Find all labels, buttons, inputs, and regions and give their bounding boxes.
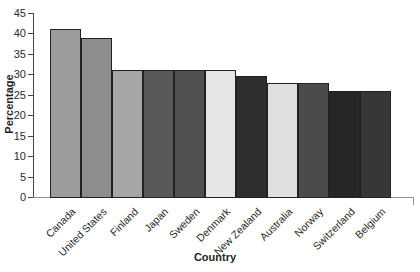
bar-chart-percentage-by-country: Percentage 051015202530354045CanadaUnite… (0, 0, 420, 272)
y-tick-20 (28, 115, 33, 116)
y-axis-line (33, 13, 34, 197)
x-axis-end-tick (413, 197, 414, 205)
y-tick-label-35: 35 (0, 49, 26, 60)
bar-belgium (360, 91, 391, 198)
bar-switzerland (329, 91, 360, 198)
y-tick-label-30: 30 (0, 69, 26, 80)
y-tick-40 (28, 33, 33, 34)
bar-australia (267, 83, 298, 198)
bar-finland (112, 70, 143, 198)
bar-denmark (205, 70, 236, 198)
bar-japan (143, 70, 174, 198)
y-tick-label-15: 15 (0, 131, 26, 142)
bar-canada (50, 29, 81, 198)
y-tick-label-5: 5 (0, 172, 26, 183)
x-category-label-wrap: Belgium (270, 201, 380, 213)
y-tick-label-40: 40 (0, 28, 26, 39)
y-tick-5 (28, 177, 33, 178)
y-tick-35 (28, 54, 33, 55)
y-tick-10 (28, 156, 33, 157)
bar-new-zealand (236, 76, 267, 198)
y-tick-45 (28, 13, 33, 14)
y-tick-label-20: 20 (0, 110, 26, 121)
bar-norway (298, 83, 329, 198)
y-tick-label-25: 25 (0, 90, 26, 101)
x-category-label-belgium: Belgium (353, 206, 388, 241)
y-tick-30 (28, 74, 33, 75)
bar-sweden (174, 70, 205, 198)
bar-united-states (81, 38, 112, 198)
y-tick-25 (28, 95, 33, 96)
y-tick-label-45: 45 (0, 8, 26, 19)
x-axis-title: Country (140, 251, 290, 263)
y-tick-label-10: 10 (0, 151, 26, 162)
y-tick-0 (28, 197, 33, 198)
y-tick-15 (28, 136, 33, 137)
